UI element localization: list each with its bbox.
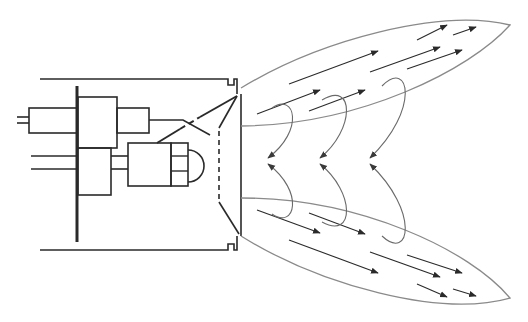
upper-flow-arrows: [257, 25, 476, 114]
diagram-canvas: [0, 0, 528, 322]
upper-lobe: [241, 20, 510, 126]
recirculation-arrows-upper: [268, 78, 405, 158]
lamp-unit: [128, 143, 204, 186]
recirculation-arrows-lower: [268, 164, 405, 243]
lower-flow-arrows: [257, 210, 476, 297]
reflector-window: [219, 94, 241, 236]
connector-block: [17, 108, 77, 133]
lower-module: [31, 148, 128, 195]
lower-lobe: [241, 198, 510, 304]
housing: [40, 79, 237, 250]
